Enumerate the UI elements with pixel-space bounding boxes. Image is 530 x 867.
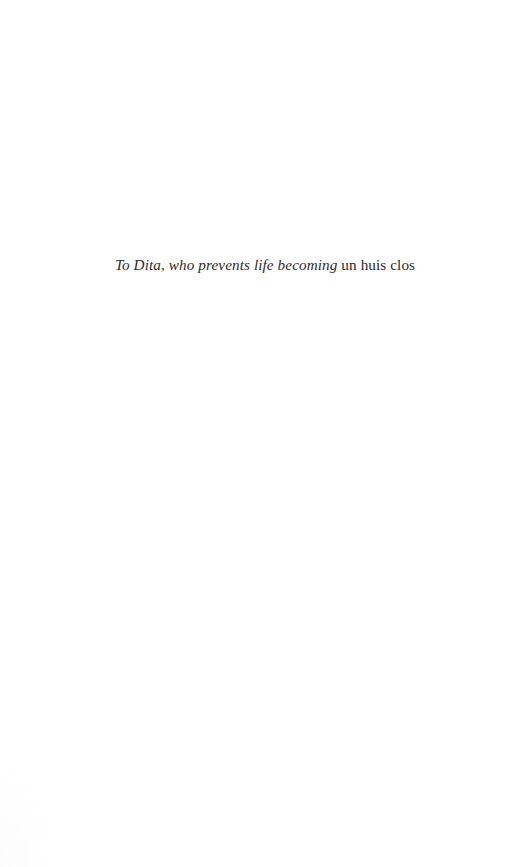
scan-edge-tint: [0, 747, 60, 867]
dedication-block: To Dita, who prevents life becoming un h…: [0, 240, 530, 290]
dedication-italic-text: To Dita, who prevents life becoming: [115, 256, 338, 273]
dedication-roman-text: un huis clos: [341, 256, 415, 273]
dedication-page: To Dita, who prevents life becoming un h…: [0, 0, 530, 867]
dedication-line: To Dita, who prevents life becoming un h…: [115, 255, 415, 275]
